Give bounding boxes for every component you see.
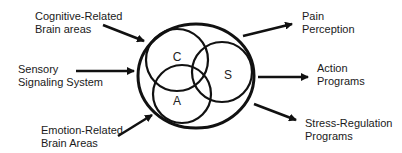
output-label-stress: Stress-Regulation Programs — [305, 117, 392, 143]
input-label-cognitive-line-2: Brain areas — [35, 23, 122, 36]
output-label-action: Action Programs — [317, 62, 365, 88]
input-label-sensory: Sensory Signaling System — [18, 63, 103, 89]
input-label-cognitive-line-1: Cognitive-Related — [35, 10, 122, 23]
output-label-stress-line-2: Programs — [305, 130, 392, 143]
input-label-emotion-line-2: Brain Areas — [41, 137, 123, 150]
diagram-canvas: C S A Cognitive-Related Brain areas Sens… — [0, 0, 402, 153]
arrow-stress — [254, 104, 296, 120]
input-label-sensory-line-1: Sensory — [18, 63, 103, 76]
output-label-action-line-1: Action — [317, 62, 365, 75]
output-label-stress-line-1: Stress-Regulation — [305, 117, 392, 130]
input-label-emotion: Emotion-Related Brain Areas — [41, 124, 123, 150]
venn-label-c: C — [173, 51, 182, 63]
input-label-sensory-line-2: Signaling System — [18, 76, 103, 89]
outer-ellipse — [138, 24, 254, 128]
venn-label-a: A — [173, 95, 181, 107]
input-label-cognitive: Cognitive-Related Brain areas — [35, 10, 122, 36]
arrow-emotion — [118, 115, 152, 136]
venn-label-s: S — [224, 69, 232, 81]
arrow-pain — [243, 24, 292, 36]
output-label-pain-line-2: Perception — [302, 23, 355, 36]
output-label-pain-line-1: Pain — [302, 10, 355, 23]
output-label-action-line-2: Programs — [317, 75, 365, 88]
output-label-pain: Pain Perception — [302, 10, 355, 36]
input-label-emotion-line-1: Emotion-Related — [41, 124, 123, 137]
